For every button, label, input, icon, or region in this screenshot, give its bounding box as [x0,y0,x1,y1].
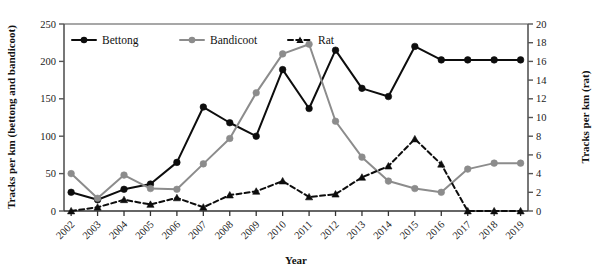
data-point [279,66,286,73]
y-tick-label-right: 8 [536,131,541,142]
legend-label: Bettong [102,34,139,47]
y-tick-label-right: 18 [536,37,547,48]
data-point [68,170,75,177]
legend-label: Rat [318,34,335,46]
data-point [306,105,313,112]
data-point [359,85,366,92]
data-point [306,41,313,48]
data-point [438,189,445,196]
data-point [226,119,233,126]
data-point [491,160,498,167]
data-point [147,185,154,192]
y-tick-label-left: 50 [46,168,57,179]
data-point [517,160,524,167]
y-tick-label-right: 14 [536,75,547,86]
legend-marker [189,37,196,44]
data-point [332,118,339,125]
y-tick-label-left: 0 [51,206,56,217]
data-point [68,189,75,196]
y-tick-label-right: 16 [536,56,547,67]
y-axis-left-title: Tracks per km (bettong and bandicoot) [5,25,18,209]
y-tick-label-right: 2 [536,187,541,198]
data-point [385,178,392,185]
y-tick-label-right: 10 [536,112,547,123]
legend-label: Bandicoot [210,34,258,46]
data-point [464,166,471,173]
data-point [359,154,366,161]
data-point [412,43,419,50]
y-tick-label-left: 150 [40,93,56,104]
y-tick-label-left: 100 [40,131,56,142]
data-point [279,51,286,58]
data-point [385,93,392,100]
data-point [174,159,181,166]
y-tick-label-right: 6 [536,150,541,161]
y-axis-right-title: Tracks per km (rat) [579,70,592,163]
y-tick-label-right: 12 [536,93,547,104]
data-point [517,57,524,64]
data-point [253,133,260,140]
data-point [121,172,128,179]
x-axis-title: Year [285,254,307,266]
y-tick-label-right: 4 [536,168,542,179]
data-point [121,186,128,193]
data-point [200,161,207,168]
y-tick-label-left: 250 [40,19,56,30]
data-point [226,135,233,142]
data-point [94,195,101,202]
data-point [332,47,339,54]
data-point [253,90,260,97]
data-point [200,104,207,111]
y-tick-label-right: 0 [536,206,541,217]
data-point [438,57,445,64]
y-tick-label-left: 200 [40,56,56,67]
data-point [174,186,181,193]
data-point [412,185,419,192]
y-tick-label-right: 20 [536,19,547,30]
data-point [464,57,471,64]
chart-container: 050100150200250 02468101214161820 200220… [0,0,602,273]
legend-marker [81,37,88,44]
data-point [491,57,498,64]
line-chart: 050100150200250 02468101214161820 200220… [0,0,602,273]
